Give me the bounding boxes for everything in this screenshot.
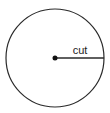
circle-diagram: cut xyxy=(0,0,110,113)
diagram-canvas: cut xyxy=(0,0,110,113)
cut-label: cut xyxy=(73,44,88,56)
center-dot xyxy=(53,56,58,61)
